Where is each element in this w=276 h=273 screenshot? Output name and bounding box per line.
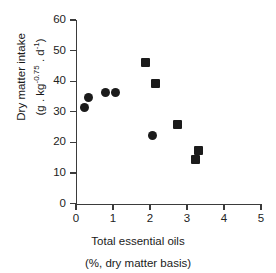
y-units-prefix: (g . kg: [34, 84, 46, 116]
y-tick-60: [70, 19, 76, 20]
y-units-mid: . d: [34, 49, 46, 65]
y-axis-title: Dry matter intake (g . kg-0.75 . d-1): [14, 2, 48, 152]
x-tick-1: [112, 204, 113, 210]
y-tick-10: [70, 172, 76, 173]
data-point-square-2: [173, 120, 182, 129]
x-tick-3: [186, 204, 187, 210]
data-point-circle-1: [84, 93, 93, 102]
x-tick-label-5: 5: [251, 213, 271, 225]
x-tick-2: [149, 204, 150, 210]
x-axis-title: Total essential oils (%, dry matter basi…: [0, 232, 276, 272]
x-axis-line: [76, 204, 262, 205]
data-point-square-0: [141, 58, 150, 67]
y-axis-line: [76, 20, 77, 205]
x-tick-label-0: 0: [66, 213, 86, 225]
y-tick-label-10: 10: [40, 167, 66, 179]
x-tick-label-3: 3: [177, 213, 197, 225]
y-tick-label-0: 0: [40, 198, 66, 210]
y-units-exponent-2: -1: [32, 42, 41, 49]
x-axis-title-line1: Total essential oils: [0, 232, 276, 250]
scatter-chart-figure: 0102030405060 012345 Dry matter intake (…: [0, 0, 276, 273]
y-tick-20: [70, 142, 76, 143]
y-units-exponent-1: -0.75: [32, 65, 41, 83]
data-point-circle-0: [80, 103, 89, 112]
data-point-square-3: [194, 146, 203, 155]
x-tick-label-1: 1: [103, 213, 123, 225]
data-point-square-4: [191, 155, 200, 164]
plot-area: 0102030405060 012345 Dry matter intake (…: [0, 0, 276, 273]
data-point-circle-4: [148, 131, 157, 140]
data-point-square-1: [151, 79, 160, 88]
y-tick-30: [70, 111, 76, 112]
x-axis-title-line2: (%, dry matter basis): [0, 254, 276, 272]
y-units-suffix: ): [34, 38, 46, 42]
x-tick-4: [223, 204, 224, 210]
x-tick-0: [75, 204, 76, 210]
data-point-circle-3: [111, 88, 120, 97]
y-axis-title-line2: (g . kg-0.75 . d-1): [29, 2, 48, 152]
x-tick-5: [260, 204, 261, 210]
x-tick-label-2: 2: [140, 213, 160, 225]
y-axis-title-line1: Dry matter intake: [14, 2, 29, 152]
data-point-circle-2: [101, 88, 110, 97]
x-tick-label-4: 4: [214, 213, 234, 225]
y-tick-50: [70, 50, 76, 51]
y-tick-40: [70, 81, 76, 82]
